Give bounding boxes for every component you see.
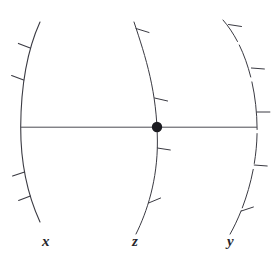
- tick-y-2: [251, 68, 264, 69]
- curve-y: [223, 20, 257, 236]
- axis-label-y: y: [227, 234, 234, 249]
- tick-y-1: [229, 25, 242, 27]
- figure-root: x z y: [0, 0, 276, 271]
- tick-y-5: [241, 207, 253, 211]
- tick-group-z: [136, 29, 170, 204]
- tick-group-y: [229, 25, 270, 212]
- tick-z-4: [149, 198, 161, 203]
- tick-z-1: [136, 29, 149, 33]
- curve-x: [21, 22, 40, 222]
- intersection-node: [152, 122, 162, 132]
- tick-x-4: [19, 196, 31, 200]
- tick-x-2: [12, 76, 24, 80]
- axis-label-x: x: [42, 234, 50, 249]
- tick-x-1: [18, 43, 30, 48]
- axis-label-z: z: [132, 234, 138, 249]
- tick-z-2: [155, 98, 168, 101]
- tick-y-4: [254, 165, 267, 166]
- tick-x-3: [13, 172, 25, 176]
- tick-z-3: [157, 148, 170, 150]
- diagram-canvas: [0, 0, 276, 271]
